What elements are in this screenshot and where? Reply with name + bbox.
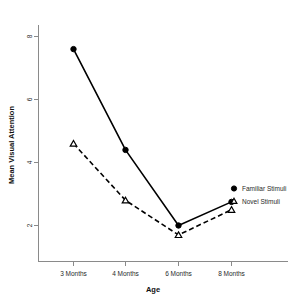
data-point-familiar-stimuli-0 bbox=[71, 46, 76, 51]
legend-label-familiar: Familiar Stimuli bbox=[242, 185, 286, 192]
legend-label-novel: Novel Stimuli bbox=[242, 198, 280, 205]
data-point-familiar-stimuli-2 bbox=[176, 223, 181, 228]
x-tick-label-3-months: 3 Months bbox=[60, 270, 87, 277]
y-tick-label-4: 4 bbox=[26, 160, 33, 164]
x-tick-label-8-months: 8 Months bbox=[218, 270, 245, 277]
chart-background bbox=[0, 0, 306, 302]
x-tick-label-6-months: 6 Months bbox=[165, 270, 192, 277]
legend-marker-familiar-circle-icon bbox=[231, 186, 236, 191]
y-tick-label-2: 2 bbox=[26, 223, 33, 227]
y-tick-label-6: 6 bbox=[26, 97, 33, 101]
line-chart: 2 4 6 8 Mean Visual Attention 3 Months 4… bbox=[0, 0, 306, 302]
data-point-familiar-stimuli-1 bbox=[123, 147, 128, 152]
y-tick-label-8: 8 bbox=[26, 34, 33, 38]
x-axis-title: Age bbox=[146, 285, 160, 294]
chart-container: 2 4 6 8 Mean Visual Attention 3 Months 4… bbox=[0, 0, 306, 302]
x-tick-label-4-months: 4 Months bbox=[112, 270, 139, 277]
y-axis-title: Mean Visual Attention bbox=[7, 106, 16, 184]
